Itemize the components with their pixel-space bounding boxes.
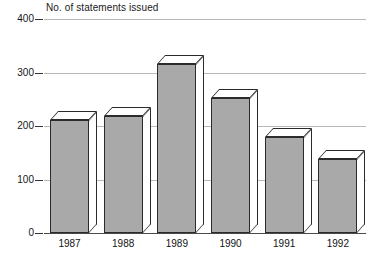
bar-side-face: [304, 128, 312, 233]
bar-front-face: [211, 98, 250, 233]
y-tick-mark: [35, 180, 43, 181]
chart-title: No. of statements issued: [46, 2, 158, 13]
y-tick-mark: [35, 233, 43, 234]
page-artifact-text: [10, 263, 190, 269]
bar-front-face: [157, 64, 196, 233]
plot-area: [44, 19, 366, 233]
bar: [50, 120, 89, 233]
bar-chart: No. of statements issued 0100200300400 1…: [0, 0, 373, 269]
y-tick-mark: [35, 126, 43, 127]
y-tick-mark: [35, 19, 43, 20]
bar: [157, 64, 196, 233]
y-tick-label: 100: [17, 174, 34, 185]
bar: [318, 159, 357, 233]
bar-front-face: [50, 120, 89, 233]
y-tick-label: 200: [17, 120, 34, 131]
y-tick: 400: [2, 13, 34, 25]
bar-front-face: [104, 116, 143, 233]
bar-front-face: [265, 137, 304, 233]
x-tick-label: 1988: [100, 238, 147, 249]
bar-side-face: [196, 56, 204, 233]
y-tick-label: 0: [28, 227, 34, 238]
bar: [104, 116, 143, 233]
bar-side-face: [250, 89, 258, 233]
bar-top-face: [104, 107, 151, 116]
bar: [211, 98, 250, 233]
bar-top-face: [318, 150, 365, 159]
bar-top-face: [50, 111, 97, 120]
bar-side-face: [357, 150, 365, 233]
y-tick-mark: [35, 73, 43, 74]
bar: [265, 137, 304, 233]
y-tick: 300: [2, 67, 34, 79]
bar-top-face: [211, 89, 258, 98]
y-tick: 200: [2, 120, 34, 132]
bar-side-face: [143, 107, 151, 233]
gridline: [44, 19, 366, 20]
x-tick-label: 1989: [153, 238, 200, 249]
gridline: [44, 73, 366, 74]
y-tick: 0: [2, 227, 34, 239]
y-tick: 100: [2, 174, 34, 186]
x-tick-label: 1987: [46, 238, 93, 249]
x-tick-label: 1992: [314, 238, 361, 249]
bar-front-face: [318, 159, 357, 233]
bar-side-face: [89, 111, 97, 233]
gridline: [44, 233, 366, 234]
x-tick-label: 1991: [261, 238, 308, 249]
y-tick-label: 300: [17, 67, 34, 78]
bar-top-face: [265, 128, 312, 137]
y-tick-label: 400: [17, 13, 34, 24]
x-tick-label: 1990: [207, 238, 254, 249]
